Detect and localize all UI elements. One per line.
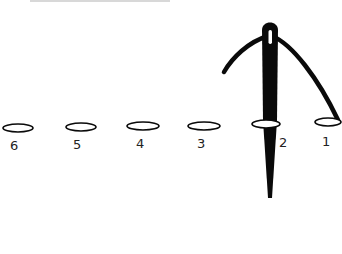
bead-5 [66,123,96,131]
thread-right-strand [272,36,338,120]
thread-left-strand [224,36,268,72]
bead-row [3,118,341,132]
bead-label-6: 6 [10,138,18,153]
needle-eye [269,30,273,44]
needle-bead-diagram: 6 5 4 3 2 1 [0,0,342,254]
bead-label-5: 5 [73,137,81,152]
needle [262,23,278,199]
bead-1 [315,118,341,126]
bead-3 [188,122,220,130]
bead-labels: 6 5 4 3 2 1 [10,134,330,153]
bead-4 [127,122,159,130]
bead-2 [252,120,280,128]
cut-off-caption [30,0,170,2]
bead-label-4: 4 [136,136,144,151]
bead-label-1: 1 [322,134,330,149]
bead-label-3: 3 [197,136,205,151]
bead-label-2: 2 [279,135,287,150]
bead-6 [3,124,33,132]
